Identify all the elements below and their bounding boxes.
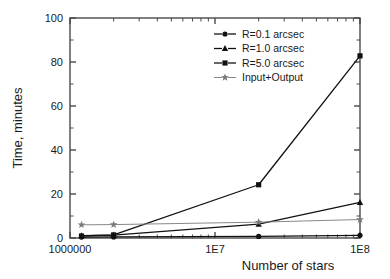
marker-triangle (357, 199, 363, 205)
plot-frame (70, 18, 360, 238)
legend-label: R=0.1 arcsec (242, 28, 304, 40)
y-axis-title: Time, minutes (10, 87, 25, 169)
y-tick-label: 20 (51, 188, 63, 200)
marker-square (256, 182, 261, 187)
x-axis-title: Number of stars (242, 258, 335, 273)
x-tick-label: 1000000 (49, 243, 92, 255)
line-chart: 10000001E71E8020406080100Number of stars… (0, 0, 390, 279)
marker-square (357, 53, 362, 58)
legend-label: R=5.0 arcsec (242, 57, 304, 69)
y-tick-label: 0 (57, 232, 63, 244)
legend: R=0.1 arcsecR=1.0 arcsecR=5.0 arcsecInpu… (214, 28, 304, 84)
series-line (81, 235, 360, 237)
marker-circle (256, 234, 261, 239)
marker-square (79, 233, 84, 238)
y-tick-label: 80 (51, 56, 63, 68)
marker-triangle (222, 45, 228, 51)
y-tick-label: 60 (51, 100, 63, 112)
marker-circle (222, 31, 227, 36)
x-tick-label: 1E8 (350, 243, 370, 255)
series-line (81, 220, 360, 225)
series-input-output (78, 215, 364, 228)
series-line (81, 202, 360, 235)
marker-star (110, 220, 118, 227)
marker-star (78, 221, 86, 228)
y-tick-label: 40 (51, 144, 63, 156)
legend-label: R=1.0 arcsec (242, 42, 304, 54)
legend-label: Input+Output (242, 71, 303, 83)
chart-container: 10000001E71E8020406080100Number of stars… (0, 0, 390, 279)
marker-circle (357, 233, 362, 238)
series-line (81, 56, 360, 236)
marker-star (221, 73, 229, 80)
x-tick-label: 1E7 (205, 243, 225, 255)
marker-square (111, 232, 116, 237)
y-tick-label: 100 (45, 12, 63, 24)
marker-square (222, 60, 227, 65)
